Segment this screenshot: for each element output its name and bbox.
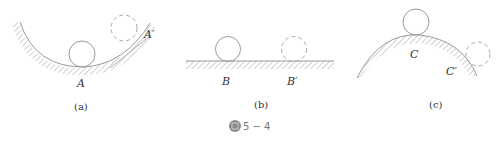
panel-b: B B′ (b) xyxy=(186,37,334,111)
label-B: B xyxy=(221,75,230,88)
caption-c: (c) xyxy=(429,99,443,110)
label-A: A xyxy=(76,77,85,90)
panel-a: A A′ (a) xyxy=(12,15,156,112)
label-B-prime: B′ xyxy=(286,75,298,88)
figure-number-text: 5 − 4 xyxy=(243,121,270,132)
panel-c: C C′ (c) xyxy=(357,9,490,110)
ball-at-B-prime-dashed xyxy=(282,37,307,62)
figure-canvas: A A′ (a) B B′ (b) C C′ (c) 5 − 4 xyxy=(0,0,503,142)
label-C: C xyxy=(410,48,419,61)
ground-hatch xyxy=(186,61,334,69)
label-A-prime: A′ xyxy=(143,28,155,41)
ball-at-B xyxy=(216,37,241,62)
ball-at-C-prime-dashed xyxy=(466,42,490,66)
figure-icon xyxy=(229,120,241,132)
ball-at-A xyxy=(69,41,95,67)
caption-b: (b) xyxy=(254,99,268,110)
caption-a: (a) xyxy=(74,101,88,112)
label-C-prime: C′ xyxy=(446,65,457,78)
figure-number: 5 − 4 xyxy=(229,120,270,132)
ball-at-A-prime-dashed xyxy=(111,15,137,41)
ball-at-C xyxy=(403,9,429,35)
